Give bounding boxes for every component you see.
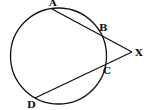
secant-diagram: A B X C D: [0, 0, 153, 110]
label-x: X: [135, 47, 143, 58]
label-b: B: [99, 22, 107, 33]
circle: [11, 8, 107, 104]
secant-a-x: [52, 9, 132, 52]
diagram-svg: A B X C D: [0, 0, 153, 110]
secant-d-x: [35, 52, 132, 98]
label-c: C: [103, 65, 111, 76]
label-d: D: [27, 99, 36, 110]
label-a: A: [48, 0, 57, 8]
